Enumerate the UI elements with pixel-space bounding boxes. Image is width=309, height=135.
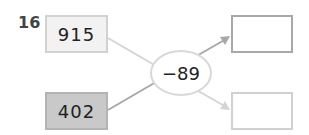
line-input2-to-operator — [108, 82, 156, 110]
answer-box-2[interactable] — [231, 92, 293, 130]
arrowhead-icon — [220, 101, 230, 110]
line-input1-to-operator — [108, 38, 156, 66]
answer-box-1[interactable] — [231, 15, 293, 53]
input-box-1: 915 — [45, 15, 108, 53]
operator-label: −89 — [151, 51, 211, 95]
problem-number: 16 — [18, 13, 40, 32]
arrowhead-icon — [220, 36, 230, 45]
input-box-2: 402 — [45, 92, 108, 130]
